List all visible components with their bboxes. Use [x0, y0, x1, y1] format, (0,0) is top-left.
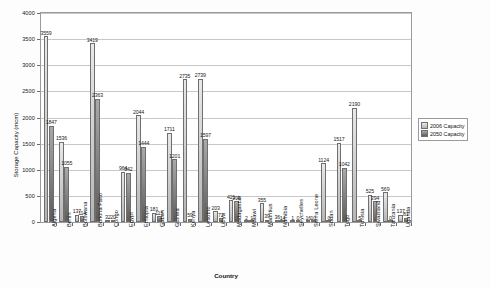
- x-category-label: Lesotho: [205, 206, 211, 227]
- x-category-label: Kenya: [190, 211, 196, 227]
- bar-2006[interactable]: [44, 36, 49, 222]
- bar-2006[interactable]: [59, 142, 64, 222]
- bar-group: 3614: [275, 13, 285, 222]
- bar-value-label-2050: 1847: [44, 119, 59, 125]
- x-category-label: Egypt: [128, 212, 134, 227]
- bar-group: 1610: [306, 13, 316, 222]
- y-tick-label: 1000: [22, 167, 35, 173]
- x-tick-mark: [149, 223, 150, 226]
- bar-2006[interactable]: [136, 115, 141, 222]
- x-category-label: Algeria: [51, 209, 57, 227]
- legend-label: 2050 Capacity: [430, 131, 464, 137]
- bar-group: 3220: [105, 13, 115, 222]
- bar-value-label-2050: 942: [121, 166, 136, 172]
- bar-value-label-2006: 1711: [162, 126, 177, 132]
- bar-value-label-2006: 2735: [178, 73, 193, 79]
- bar-group: 964942: [121, 13, 131, 222]
- bar-group: 10: [290, 13, 300, 222]
- x-axis-title: Country: [40, 272, 412, 279]
- bar-group: 273559: [183, 13, 193, 222]
- x-tick-mark: [334, 223, 335, 226]
- x-category-label: Ethiopia: [143, 206, 149, 227]
- x-category-label: Seychelles: [298, 199, 304, 227]
- x-category-label: Benin: [66, 212, 72, 227]
- bar-group: 21905: [352, 13, 362, 222]
- y-tick-label: 3000: [22, 62, 35, 68]
- bar-group: 11240: [321, 13, 331, 222]
- bar-2006[interactable]: [352, 108, 357, 222]
- bar-2006[interactable]: [75, 215, 80, 222]
- bar-value-label-2006: 1536: [54, 135, 69, 141]
- x-category-label: Sierra Leone: [313, 194, 319, 227]
- bar-chart: 05001000150020002500300035004000 Storage…: [0, 0, 491, 289]
- bar-group: 17111201: [167, 13, 177, 222]
- y-tick-label: 0: [32, 219, 35, 225]
- bar-group: 34192363: [90, 13, 100, 222]
- bar-group: 5690: [383, 13, 393, 222]
- bar-2006[interactable]: [90, 43, 95, 222]
- bar-2006[interactable]: [337, 143, 342, 222]
- bar-2006[interactable]: [198, 79, 203, 222]
- bar-group: 20441444: [136, 13, 146, 222]
- bar-2006[interactable]: [229, 200, 234, 222]
- y-tick-label: 500: [25, 193, 35, 199]
- y-tick-label: 1500: [22, 141, 35, 147]
- bar-group: 181115: [152, 13, 162, 222]
- y-tick-label: 2500: [22, 88, 35, 94]
- bar-value-label-2006: 569: [378, 186, 393, 192]
- x-tick-mark: [226, 223, 227, 226]
- legend-item-2006[interactable]: 2006 Capacity: [421, 122, 464, 129]
- y-tick-label: 3500: [22, 36, 35, 42]
- bar-2006[interactable]: [183, 79, 188, 222]
- x-category-label: Madagascar: [236, 195, 242, 227]
- x-category-label: Tanzania: [390, 204, 396, 227]
- legend-label: 2006 Capacity: [430, 123, 464, 129]
- x-category-label: Libya: [220, 213, 226, 227]
- bars-layer: 3559184715361055137114341923633220964942…: [41, 13, 411, 222]
- chart-legend: 2006 Capacity 2050 Capacity: [418, 118, 468, 141]
- bar-value-label-2050: 1201: [167, 153, 182, 159]
- x-category-label: Congo: [113, 210, 119, 227]
- x-category-label: Mauritius: [267, 203, 273, 227]
- y-tick-label: 4000: [22, 10, 35, 16]
- legend-item-2050[interactable]: 2050 Capacity: [421, 130, 464, 137]
- bar-group: 21: [244, 13, 254, 222]
- bar-group: 525394: [368, 13, 378, 222]
- x-category-label: Swaziland: [375, 201, 381, 227]
- bar-group: 15361055: [59, 13, 69, 222]
- bar-value-label-2006: 525: [363, 188, 378, 194]
- bar-value-label-2050: 1597: [198, 132, 213, 138]
- x-category-label: Burkina Faso: [97, 193, 103, 227]
- bar-2006[interactable]: [167, 133, 172, 222]
- x-category-label: Sudan: [328, 210, 334, 227]
- bar-group: 15171042: [337, 13, 347, 222]
- x-category-label: Uganda: [405, 207, 411, 227]
- bar-value-label-2006: 1124: [316, 157, 331, 163]
- x-category-label: Guinea: [174, 208, 180, 227]
- bar-2006[interactable]: [121, 172, 126, 222]
- legend-swatch-icon: [421, 130, 428, 137]
- bar-value-label-2050: 1055: [59, 160, 74, 166]
- bar-2006[interactable]: [321, 163, 326, 222]
- x-category-label: Gabon: [159, 210, 165, 227]
- bar-group: 20372: [213, 13, 223, 222]
- y-axis: 05001000150020002500300035004000: [0, 12, 40, 223]
- x-category-label: Botswana: [82, 202, 88, 227]
- x-category-label: Togo: [344, 214, 350, 227]
- legend-swatch-icon: [421, 122, 428, 129]
- x-category-label: Malawi: [251, 209, 257, 227]
- bar-value-label-2006: 2044: [131, 109, 146, 115]
- bar-value-label-2006: 2739: [193, 72, 208, 78]
- bar-value-label-2006: 1517: [332, 136, 347, 142]
- y-tick-label: 2000: [22, 115, 35, 121]
- x-category-label: Namibia: [282, 206, 288, 227]
- x-category-label: Tunisia: [359, 208, 365, 227]
- bar-group: 137114: [75, 13, 85, 222]
- bar-group: 27391597: [198, 13, 208, 222]
- bar-value-label-2006: 3559: [39, 30, 54, 36]
- bar-group: 35539: [260, 13, 270, 222]
- bar-value-label-2050: 1042: [337, 161, 352, 167]
- bar-group: 13781: [398, 13, 408, 222]
- bar-2050[interactable]: [49, 126, 54, 223]
- y-axis-title: Storage Capacity (mcm): [13, 75, 19, 215]
